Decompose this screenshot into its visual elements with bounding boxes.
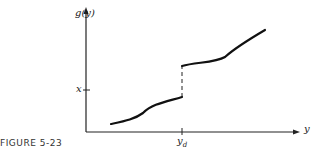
figure-caption: FIGURE 5-23 — [0, 138, 62, 148]
curve-upper-branch — [182, 30, 265, 66]
y-tick-label: x — [76, 84, 82, 94]
x-tick-label-yd: yd — [177, 136, 187, 146]
curve-lower-branch — [111, 97, 182, 124]
y-axis-label: g(y) — [75, 8, 95, 18]
x-tick-label-sub: d — [183, 141, 187, 149]
x-tick-label-main: y — [177, 135, 183, 146]
x-axis-label: y — [304, 124, 310, 134]
x-axis-arrow-icon — [293, 130, 300, 135]
figure-plot — [0, 0, 320, 152]
